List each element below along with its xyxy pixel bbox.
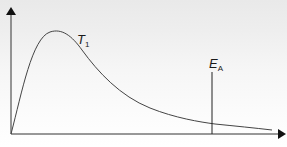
maxwell-boltzmann-chart: T1 EA [0,0,287,147]
chart-canvas: T1 EA [0,0,287,147]
ea-label: EA [209,56,224,73]
curve-label: T1 [77,32,90,49]
distribution-curve-t1 [11,31,272,134]
y-axis-arrow-icon [6,7,16,15]
x-axis-arrow-icon [278,129,286,139]
